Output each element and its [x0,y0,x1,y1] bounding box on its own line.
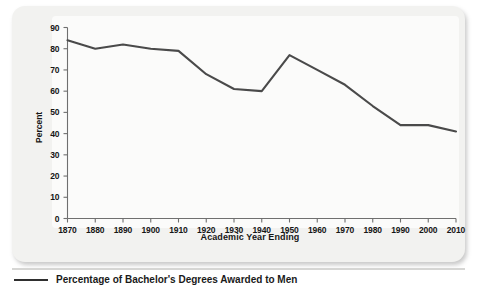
y-tick-label: 90 [24,23,60,33]
y-tick-label: 80 [24,44,60,54]
x-axis-title: Academic Year Ending [40,232,460,242]
chart-plot-area [0,0,484,285]
y-tick-label: 60 [24,86,60,96]
y-tick-label: 0 [24,214,60,224]
x-axis-ticks [68,219,457,223]
y-tick-label: 70 [24,65,60,75]
figure-root: 0102030405060708090 18701880189019001910… [0,0,484,285]
y-tick-label: 20 [24,171,60,181]
caption-marker [14,279,48,281]
y-tick-label: 10 [24,192,60,202]
y-tick-label: 30 [24,150,60,160]
data-series-line [68,40,457,131]
y-axis-title: Percent [34,112,44,143]
y-axis-ticks [64,28,68,219]
caption-divider [12,268,465,270]
chart-axes [64,28,457,223]
figure-caption: Percentage of Bachelor's Degrees Awarded… [56,274,297,285]
